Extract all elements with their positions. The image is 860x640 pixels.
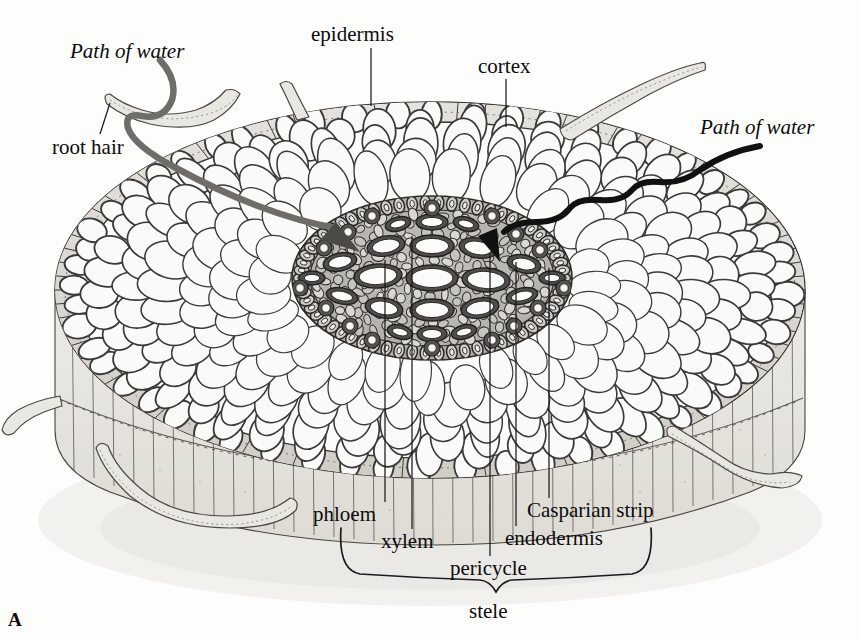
endodermis-label: endodermis	[505, 528, 603, 549]
cortex-label: cortex	[478, 56, 530, 77]
root-hair-top-right	[560, 62, 705, 140]
phloem-label: phloem	[313, 504, 376, 525]
figure-canvas: Path of water root hair epidermis cortex…	[0, 0, 860, 640]
root-hair-left-lower	[2, 396, 62, 435]
stele-label: stele	[469, 601, 507, 622]
epidermis-label: epidermis	[311, 24, 394, 45]
path-of-water-right-label: Path of water	[700, 117, 814, 138]
pericycle-label: pericycle	[450, 558, 527, 579]
root-hair-label: root hair	[52, 137, 124, 158]
xylem-label: xylem	[381, 531, 434, 552]
panel-letter: A	[8, 610, 22, 629]
path-of-water-left-label: Path of water	[70, 41, 184, 62]
casparian-strip-label: Casparian strip	[527, 500, 654, 521]
root-hair-top-left-small	[280, 82, 309, 121]
root-hair-leader	[100, 103, 110, 134]
